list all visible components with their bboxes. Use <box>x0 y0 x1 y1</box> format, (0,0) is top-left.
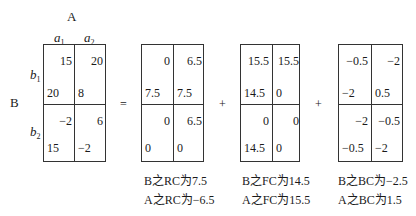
cell-b1a2-top-right: 15.5 <box>271 55 299 67</box>
cell-b2a1-top-right: 0 <box>142 115 170 127</box>
cell-b2a1-bottom-left: −0.5 <box>342 142 364 154</box>
equals-sign: = <box>120 98 127 110</box>
cell-b1a2-top-right: 20 <box>75 55 103 67</box>
cell-b1a2-top-right: −2 <box>372 55 400 67</box>
cell-b2a1-bottom-left: 14.5 <box>244 142 265 154</box>
cell-b2a2-bottom-left: −2 <box>375 142 388 154</box>
cell-b1a1-top-right: 0 <box>142 55 170 67</box>
cell-b1a1-bottom-left: 7.5 <box>145 87 160 99</box>
cell-b1a1-top-right: 15 <box>44 55 72 67</box>
caption-fc-b: B之FC为14.5 <box>242 174 310 188</box>
cell-b2a1-top-right: −2 <box>44 115 72 127</box>
row-factor-label: B <box>10 96 19 110</box>
plus-sign-1: + <box>219 98 226 110</box>
divider-horizontal <box>339 104 402 105</box>
cell-b1a1-top-right: −0.5 <box>339 55 368 67</box>
cell-b2a1-bottom-left: 0 <box>145 142 151 154</box>
cell-b1a1-bottom-left: 20 <box>47 87 59 99</box>
plus-sign-2: + <box>315 98 322 110</box>
matrix-original: 15 20 20 8 −2 15 6 −2 <box>43 44 106 162</box>
row-level-b2: b2 <box>30 125 41 144</box>
caption-rc-a: A之RC为−6.5 <box>144 193 214 207</box>
row-level-b2-sub: 2 <box>37 132 41 141</box>
caption-bc-b: B之BC为−2.5 <box>338 174 408 188</box>
row-level-b1-sub: 1 <box>37 75 41 84</box>
cell-b1a2-bottom-left: 7.5 <box>177 87 192 99</box>
cell-b1a1-bottom-left: 14.5 <box>244 87 265 99</box>
cell-b2a2-top-right: −0.5 <box>372 115 400 127</box>
cell-b2a1-top-right: 0 <box>241 115 269 127</box>
cell-b2a2-bottom-left: −2 <box>78 142 91 154</box>
cell-b2a2-top-right: 0 <box>271 115 299 127</box>
divider-horizontal <box>241 104 299 105</box>
cell-b2a2-top-right: 6 <box>75 115 103 127</box>
cell-b1a1-bottom-left: −2 <box>342 87 355 99</box>
caption-rc-b: B之RC为7.5 <box>144 174 207 188</box>
col-factor-label: A <box>67 10 76 24</box>
cell-b2a2-bottom-left: 0 <box>177 142 183 154</box>
matrix-fc: 15.5 14.5 15.5 0 0 14.5 0 0 <box>240 44 300 162</box>
caption-fc-a: A之FC为15.5 <box>242 193 310 207</box>
cell-b2a1-bottom-left: 15 <box>47 142 59 154</box>
cell-b1a2-bottom-left: 0.5 <box>375 87 390 99</box>
cell-b2a2-bottom-left: 0 <box>276 142 282 154</box>
divider-horizontal <box>44 104 105 105</box>
cell-b2a2-top-right: 6.5 <box>174 115 202 127</box>
cell-b1a2-bottom-left: 0 <box>276 87 282 99</box>
cell-b1a1-top-right: 15.5 <box>241 55 269 67</box>
caption-bc-a: A之BC为1.5 <box>338 193 402 207</box>
row-level-b1: b1 <box>30 68 41 87</box>
matrix-bc: −0.5 −2 −2 0.5 −2 −0.5 −0.5 −2 <box>338 44 403 162</box>
cell-b1a2-bottom-left: 8 <box>78 87 84 99</box>
matrix-rc: 0 7.5 6.5 7.5 0 0 6.5 0 <box>141 44 204 162</box>
cell-b1a2-top-right: 6.5 <box>174 55 202 67</box>
divider-horizontal <box>142 104 203 105</box>
cell-b2a1-top-right: −2 <box>339 115 368 127</box>
